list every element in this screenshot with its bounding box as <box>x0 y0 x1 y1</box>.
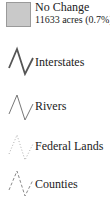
federal-lands-line-icon <box>6 132 36 162</box>
legend-item-rivers: Rivers <box>0 91 110 123</box>
legend-detail: 11633 acres (0.7%) <box>35 14 110 25</box>
legend-label: No Change <box>35 1 89 14</box>
legend-label: Rivers <box>35 99 66 113</box>
counties-line-icon <box>6 168 36 198</box>
legend-label: Interstates <box>35 55 84 69</box>
no-change-swatch-icon <box>6 2 31 27</box>
legend-item-federal-lands: Federal Lands <box>0 131 110 163</box>
legend-item-no-change: No Change 11633 acres (0.7%) <box>0 0 110 30</box>
legend-item-interstates: Interstates <box>0 45 110 77</box>
legend-label: Counties <box>35 177 78 191</box>
rivers-line-icon <box>6 92 36 122</box>
interstates-line-icon <box>6 46 36 76</box>
legend-label: Federal Lands <box>35 139 103 153</box>
legend-item-counties: Counties <box>0 166 110 200</box>
